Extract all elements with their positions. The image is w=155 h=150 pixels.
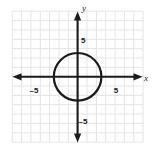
coordinate-plane-svg: y x 5 –5 –5 5 — [0, 0, 155, 150]
x-tick-label-positive-5: 5 — [114, 86, 119, 95]
x-axis-label: x — [143, 73, 148, 83]
x-axis-right-arrow-icon — [134, 73, 143, 80]
y-tick-label-positive-5: 5 — [81, 36, 86, 45]
x-tick-label-negative-5: –5 — [30, 86, 39, 95]
x-axis-left-arrow-icon — [13, 73, 22, 80]
y-axis-top-arrow-icon — [74, 12, 81, 21]
y-tick-label-negative-5: –5 — [79, 117, 88, 126]
y-axis-bottom-arrow-icon — [74, 134, 81, 143]
graph-figure: y x 5 –5 –5 5 — [0, 0, 155, 150]
y-axis-label: y — [81, 3, 86, 13]
